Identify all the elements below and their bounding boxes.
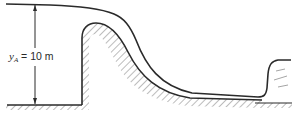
hydraulic-jump-turbulence <box>274 69 288 87</box>
depth-equals: = <box>21 50 27 62</box>
depth-subscript: A <box>14 56 18 64</box>
spillway-hatch <box>82 23 262 110</box>
downstream-floor-hatch <box>262 103 292 108</box>
depth-label: yA = 10 m <box>8 50 55 66</box>
depth-value: 10 m <box>30 50 53 62</box>
